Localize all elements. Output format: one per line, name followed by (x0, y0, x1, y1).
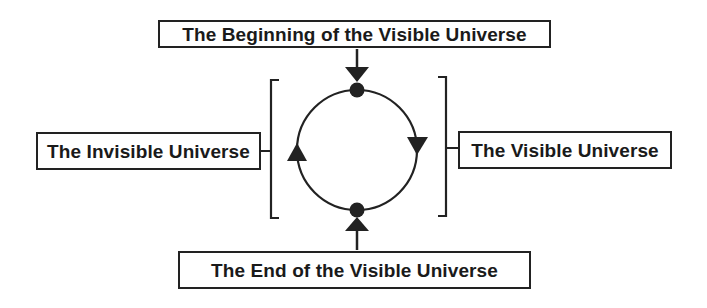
universe-cycle-diagram: The Beginning of the Visible Universe Th… (0, 0, 707, 308)
beginning-node (350, 83, 365, 98)
invisible-universe-label: The Invisible Universe (47, 142, 250, 161)
visible-universe-label: The Visible Universe (471, 141, 659, 160)
end-label: The End of the Visible Universe (211, 261, 498, 280)
end-label-box: The End of the Visible Universe (178, 251, 531, 289)
down-arrow-icon (345, 49, 369, 82)
left-bracket (261, 80, 279, 218)
left-arc-up-arrow-icon (287, 143, 307, 161)
beginning-label-box: The Beginning of the Visible Universe (158, 20, 551, 48)
visible-universe-label-box: The Visible Universe (458, 131, 672, 169)
right-bracket (438, 77, 458, 216)
up-arrow-icon (345, 217, 369, 250)
cycle-circle (297, 90, 417, 210)
invisible-universe-label-box: The Invisible Universe (36, 132, 261, 170)
right-arc-down-arrow-icon (407, 137, 428, 155)
end-node (350, 203, 365, 218)
beginning-label: The Beginning of the Visible Universe (182, 25, 526, 44)
